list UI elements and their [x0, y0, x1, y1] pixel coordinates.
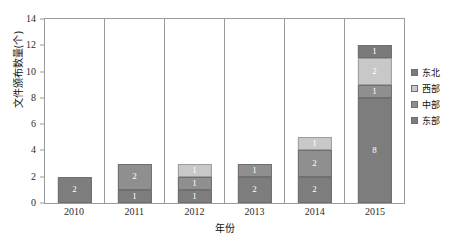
- bar-segment-value: 1: [252, 166, 257, 175]
- legend-item-label: 东部: [422, 114, 440, 127]
- bar-segment[interactable]: 8: [357, 98, 391, 203]
- bar-cell: 21: [225, 19, 285, 203]
- x-axis-label: 年份: [44, 220, 405, 235]
- bar-segment[interactable]: 1: [177, 164, 211, 177]
- bar-segment[interactable]: 1: [177, 177, 211, 190]
- bar-cell: 221: [285, 19, 345, 203]
- bar-segment-value: 1: [132, 192, 137, 201]
- y-tick-label: 0: [31, 198, 36, 208]
- y-tick-label: 8: [31, 93, 36, 103]
- bar-segment[interactable]: 1: [297, 137, 331, 150]
- bar-segment-value: 1: [372, 47, 377, 56]
- bar-segment-value: 1: [312, 139, 317, 148]
- stacked-bar[interactable]: 21: [237, 164, 271, 203]
- x-tick-label: 2014: [285, 206, 345, 220]
- bar-cell: 12: [105, 19, 165, 203]
- legend-swatch-icon: [411, 117, 418, 124]
- bar-segment-value: 2: [372, 67, 377, 76]
- x-tick-label: 2013: [225, 206, 285, 220]
- bar-segment[interactable]: 2: [117, 164, 151, 190]
- stacked-bar[interactable]: 12: [117, 164, 151, 203]
- bar-segment-value: 1: [192, 179, 197, 188]
- y-tick-label: 2: [31, 172, 36, 182]
- bar-segment[interactable]: 1: [237, 164, 271, 177]
- stacked-bar[interactable]: 221: [297, 137, 331, 203]
- legend-item-label: 西部: [422, 82, 440, 95]
- legend-item-label: 东北: [422, 66, 440, 79]
- y-axis-label: 文件颁布数量(个): [10, 15, 25, 125]
- legend: 东北西部中部东部: [411, 64, 464, 128]
- bar-segment[interactable]: 1: [117, 190, 151, 203]
- y-tick-label: 14: [26, 14, 36, 24]
- bar-segment[interactable]: 1: [177, 190, 211, 203]
- bar-cell: 2: [45, 19, 105, 203]
- bar-segment[interactable]: 1: [357, 45, 391, 58]
- x-tick-label: 2010: [44, 206, 104, 220]
- bar-segment[interactable]: 1: [357, 85, 391, 98]
- bar-segment-value: 8: [372, 146, 377, 155]
- legend-item[interactable]: 中部: [411, 96, 464, 112]
- x-tick-label: 2011: [104, 206, 164, 220]
- legend-item[interactable]: 西部: [411, 80, 464, 96]
- y-tick-label: 4: [31, 145, 36, 155]
- legend-swatch-icon: [411, 101, 418, 108]
- x-axis-ticks: 201020112012201320142015: [44, 206, 405, 220]
- plot-area: 212111212218121: [44, 18, 405, 204]
- bar-segment-value: 1: [192, 166, 197, 175]
- bar-cells: 212111212218121: [45, 19, 404, 203]
- stacked-bar[interactable]: 8121: [357, 45, 391, 203]
- y-tick-label: 12: [26, 40, 36, 50]
- stacked-bar[interactable]: 111: [177, 164, 211, 203]
- bar-segment-value: 2: [132, 172, 137, 181]
- bar-segment[interactable]: 2: [357, 58, 391, 84]
- bar-segment-value: 2: [312, 159, 317, 168]
- legend-item[interactable]: 东部: [411, 112, 464, 128]
- x-tick-label: 2012: [164, 206, 224, 220]
- bar-cell: 111: [165, 19, 225, 203]
- legend-swatch-icon: [411, 69, 418, 76]
- bar-segment-value: 2: [252, 185, 257, 194]
- clipped-header-artifact: [0, 0, 464, 7]
- bar-segment[interactable]: 2: [237, 177, 271, 203]
- bar-segment-value: 1: [372, 87, 377, 96]
- bar-cell: 8121: [345, 19, 404, 203]
- y-tick-label: 10: [26, 67, 36, 77]
- stacked-bar[interactable]: 2: [57, 177, 91, 203]
- chart-figure: 14121086420 文件颁布数量(个) 212111212218121 20…: [0, 0, 464, 243]
- bar-segment-value: 2: [312, 185, 317, 194]
- bar-segment-value: 2: [72, 185, 77, 194]
- legend-swatch-icon: [411, 85, 418, 92]
- legend-item-label: 中部: [422, 98, 440, 111]
- bar-segment[interactable]: 2: [297, 150, 331, 176]
- bar-segment[interactable]: 2: [297, 177, 331, 203]
- y-tick-label: 6: [31, 119, 36, 129]
- bar-segment[interactable]: 2: [57, 177, 91, 203]
- bar-segment-value: 1: [192, 192, 197, 201]
- x-tick-label: 2015: [345, 206, 405, 220]
- legend-item[interactable]: 东北: [411, 64, 464, 80]
